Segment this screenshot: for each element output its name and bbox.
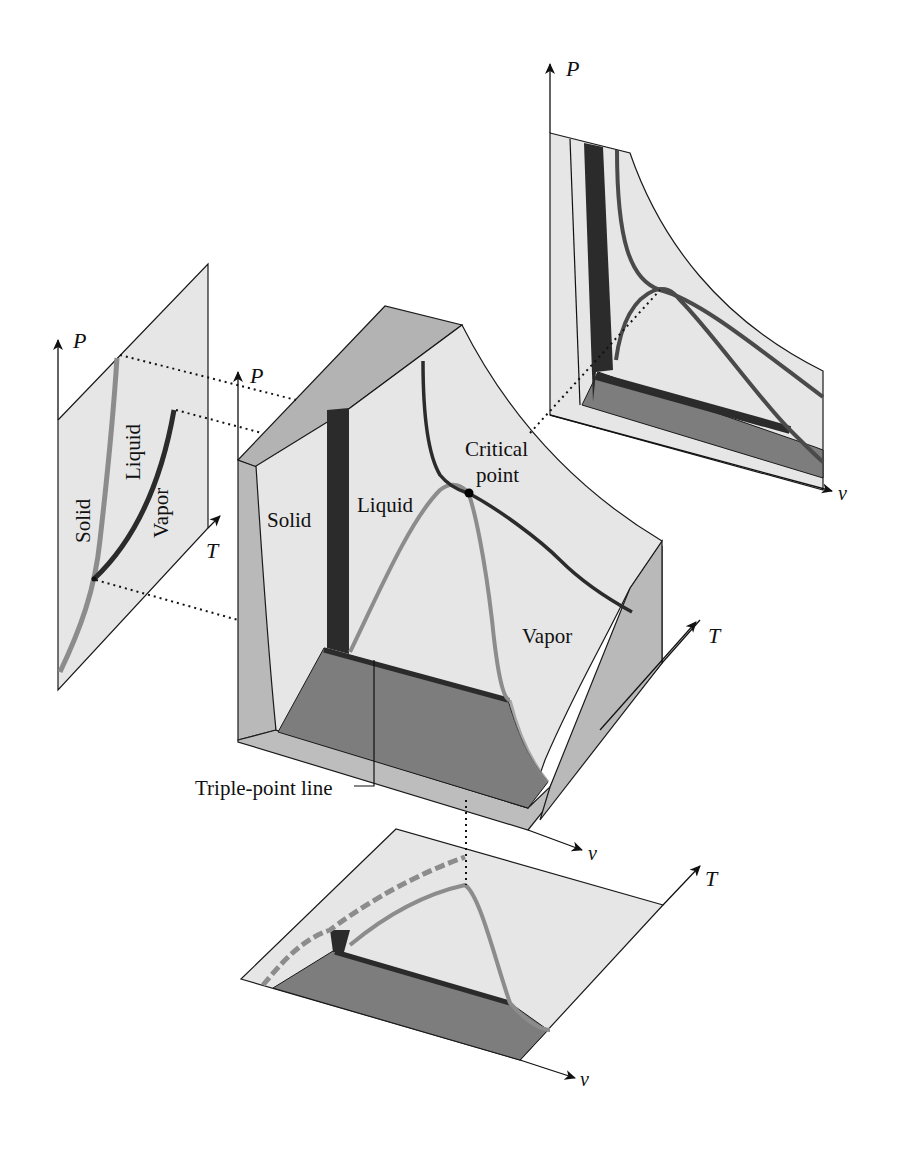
pt-t-axis-label: T [206, 538, 220, 563]
triple-point-line-label: Triple-point line [195, 776, 332, 800]
pvt-surface-figure: P T Solid Liquid Vapor P T v Solid Liqui… [0, 0, 905, 1149]
main-vapor-label: Vapor [522, 624, 572, 648]
critical-point-label-line2: point [476, 463, 519, 487]
pv-diagram [550, 64, 832, 491]
pt-liquid-label: Liquid [121, 424, 145, 480]
tv-v-axis [520, 1060, 575, 1078]
main-t-axis [662, 620, 700, 663]
tv-t-axis-label: T [705, 866, 719, 891]
main-p-axis-label: P [249, 363, 263, 388]
main-v-axis-label: v [588, 842, 597, 864]
pv-p-axis-label: P [565, 56, 579, 81]
tv-t-axis [663, 866, 700, 905]
pt-vapor-label: Vapor [149, 488, 173, 538]
main-solid-label: Solid [267, 508, 312, 532]
critical-point-label-line1: Critical [465, 437, 528, 461]
pt-solid-label: Solid [71, 498, 95, 543]
tv-diagram [241, 829, 700, 1078]
main-t-axis-label: T [708, 623, 722, 648]
pt-t-axis [208, 516, 220, 528]
tv-v-axis-label: v [580, 1068, 589, 1090]
pt-p-axis-label: P [72, 328, 86, 353]
critical-point-marker [465, 489, 474, 498]
pv-v-axis-label: v [838, 482, 847, 504]
main-v-axis [528, 830, 582, 850]
main-liquid-label: Liquid [357, 493, 413, 517]
pt-triple-point [92, 577, 97, 582]
solid-liquid-band [327, 408, 349, 654]
